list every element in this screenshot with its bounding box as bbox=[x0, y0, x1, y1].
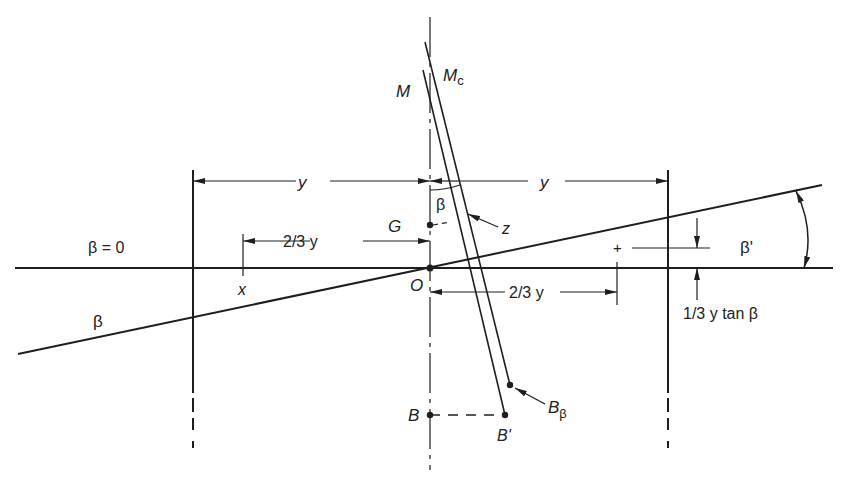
beta-arc-small bbox=[430, 185, 460, 190]
label-beta-zero: β = 0 bbox=[88, 239, 124, 256]
label-z: z bbox=[501, 220, 510, 237]
b-beta-leader bbox=[515, 388, 545, 404]
point-b bbox=[427, 412, 433, 418]
label-x: x bbox=[237, 281, 247, 298]
point-o bbox=[427, 265, 434, 272]
point-b-beta bbox=[507, 382, 513, 388]
line-mc bbox=[425, 42, 510, 385]
label-beta-prime: β' bbox=[740, 238, 753, 257]
beta-prime-arc bbox=[796, 191, 808, 268]
line-m bbox=[423, 70, 505, 415]
label-plus: + bbox=[613, 239, 622, 256]
label-m: M bbox=[396, 82, 411, 101]
label-mc: Mc bbox=[443, 66, 464, 88]
g-projection bbox=[433, 222, 450, 225]
label-beta-small: β bbox=[436, 196, 445, 213]
label-b-prime: B' bbox=[497, 427, 512, 444]
label-y-left: y bbox=[297, 173, 308, 192]
label-two-thirds-lower: 2/3 y bbox=[509, 284, 544, 301]
z-leader bbox=[468, 214, 498, 227]
point-b-prime bbox=[502, 412, 508, 418]
inclined-beta-line bbox=[18, 185, 822, 354]
stability-diagram: M Mc y y β G z β = 0 2/3 y x O 2/3 y + β… bbox=[0, 0, 845, 489]
label-b-beta: Bβ bbox=[548, 398, 567, 421]
label-beta-line: β bbox=[93, 312, 103, 331]
label-b: B bbox=[408, 406, 419, 425]
label-two-thirds-upper: 2/3 y bbox=[283, 233, 318, 250]
point-g bbox=[427, 222, 433, 228]
label-o: O bbox=[410, 276, 423, 295]
label-g: G bbox=[388, 217, 401, 236]
label-one-third-tan: 1/3 y tan β bbox=[683, 305, 758, 322]
label-y-right: y bbox=[539, 173, 550, 192]
